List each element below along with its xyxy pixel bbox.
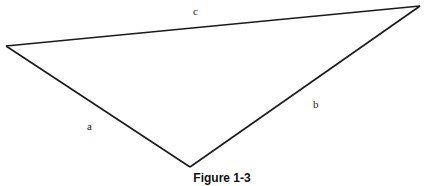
triangle-diagram: c a b Figure 1-3 xyxy=(0,0,431,186)
side-a-line xyxy=(6,46,190,167)
figure-caption: Figure 1-3 xyxy=(193,171,251,185)
side-b-line xyxy=(190,6,420,167)
side-a-label: a xyxy=(87,120,92,132)
side-c-label: c xyxy=(193,5,198,17)
side-c-line xyxy=(6,6,420,46)
side-b-label: b xyxy=(313,98,319,110)
